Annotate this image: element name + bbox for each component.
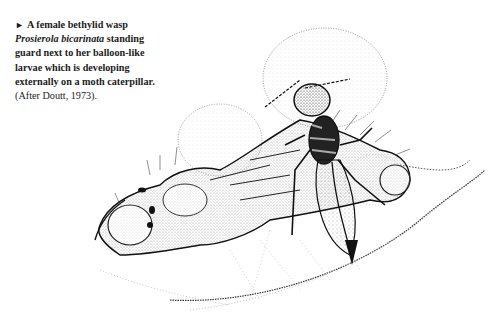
wasp-caterpillar-illustration xyxy=(0,0,493,329)
